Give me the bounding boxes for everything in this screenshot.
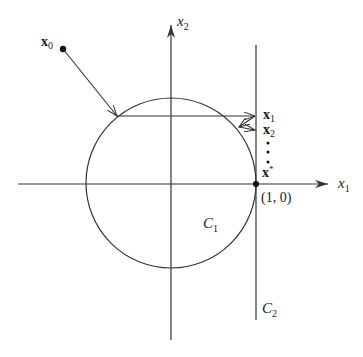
limit-coordinates-label: (1, 0) — [261, 190, 292, 206]
x2-label: x2 — [263, 122, 275, 139]
c1-label: C1 — [203, 215, 218, 234]
projection-diagram: x2 x1 x0 x1 x2 x* (1, 0) C1 C2 — [0, 0, 363, 357]
x2-axis-label: x2 — [176, 13, 189, 32]
c2-label: C2 — [262, 300, 277, 319]
projection-arrow-x0-to-circle — [63, 49, 117, 116]
point-x-star — [253, 181, 259, 187]
x1-axis-label: x1 — [337, 175, 350, 194]
projection-arrow-to-x2 — [239, 127, 255, 130]
x-star-label: x* — [262, 164, 274, 180]
ellipsis-dot — [267, 151, 270, 154]
projection-arrow-x1-to-circle — [239, 116, 255, 127]
x0-label: x0 — [41, 34, 53, 51]
ellipsis-dot — [267, 142, 270, 145]
